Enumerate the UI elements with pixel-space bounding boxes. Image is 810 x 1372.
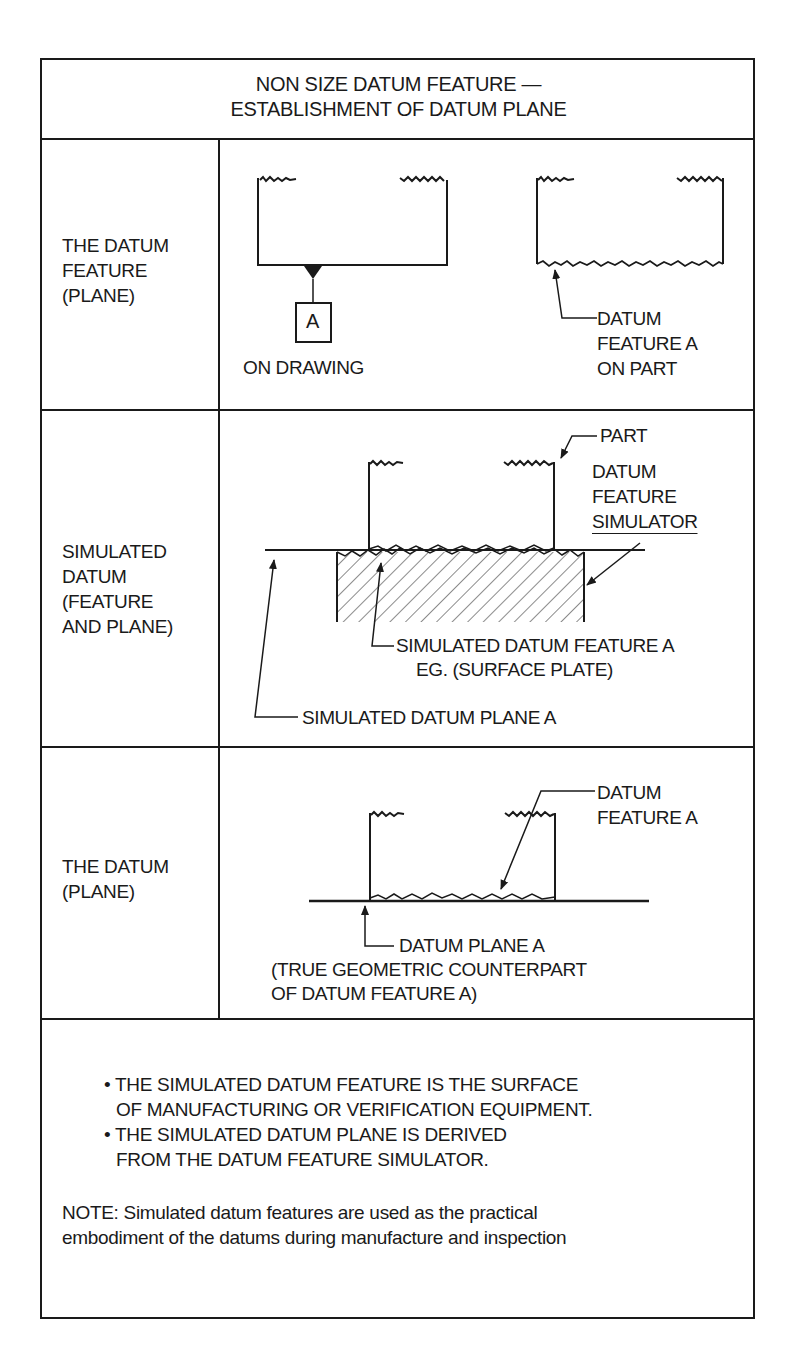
footer-note-line: NOTE: Simulated datum features are used … [62,1200,566,1225]
row1-drawing-on-part [537,177,723,318]
simulator-label-line: FEATURE [592,484,698,509]
datum-symbol-letter: A [306,309,319,334]
footer-note-line: embodiment of the datums during manufact… [62,1225,566,1250]
footer-bullet-line: • THE SIMULATED DATUM FEATURE IS THE SUR… [104,1072,593,1097]
datum-feature-label-line: DATUM [597,780,698,805]
counterpart-label-line-2: OF DATUM FEATURE A) [271,981,477,1006]
simulator-label-line: DATUM [592,459,698,484]
datum-feature-label-line: FEATURE A [597,805,698,830]
footer-bullet-line: • THE SIMULATED DATUM PLANE IS DERIVED [104,1122,507,1147]
on-drawing-label: ON DRAWING [243,355,364,380]
surface-plate-label: EG. (SURFACE PLATE) [416,657,613,682]
simulated-datum-feature-label: SIMULATED DATUM FEATURE A [396,633,674,658]
row1-drawing-on-drawing [258,177,447,342]
on-part-label-line: ON PART [597,356,698,381]
footer-bullet-line: OF MANUFACTURING OR VERIFICATION EQUIPME… [104,1097,593,1122]
footer-bullet-1: • THE SIMULATED DATUM FEATURE IS THE SUR… [104,1072,593,1122]
simulated-datum-plane-label: SIMULATED DATUM PLANE A [302,705,556,730]
on-part-label-line: FEATURE A [597,331,698,356]
datum-plane-label: DATUM PLANE A [399,933,544,958]
footer-bullet-2: • THE SIMULATED DATUM PLANE IS DERIVED F… [104,1122,507,1172]
datum-feature-simulator-label: DATUM FEATURE SIMULATOR [592,459,698,534]
part-label: PART [600,423,647,448]
simulator-label-line: SIMULATOR [592,509,698,534]
on-part-label: DATUM FEATURE A ON PART [597,306,698,381]
datum-feature-label: DATUM FEATURE A [597,780,698,830]
footer-note: NOTE: Simulated datum features are used … [62,1200,566,1250]
counterpart-label-line-1: (TRUE GEOMETRIC COUNTERPART [271,957,587,982]
footer-bullet-line: FROM THE DATUM FEATURE SIMULATOR. [104,1147,507,1172]
on-part-label-line: DATUM [597,306,698,331]
